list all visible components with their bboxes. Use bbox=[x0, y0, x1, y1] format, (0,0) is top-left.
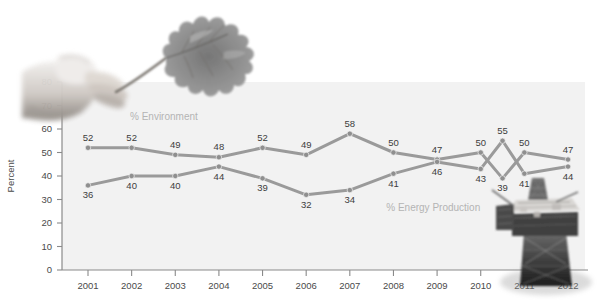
y-axis-tick-label: 40 bbox=[41, 170, 52, 181]
data-point-label: 44 bbox=[563, 171, 574, 182]
data-point-label: 55 bbox=[497, 125, 508, 136]
data-point-label: 50 bbox=[519, 137, 530, 148]
x-axis-tick-label: 2010 bbox=[470, 280, 491, 291]
series-data-point bbox=[478, 150, 483, 155]
y-axis-tick-label: 70 bbox=[41, 100, 52, 111]
series-data-point bbox=[260, 145, 265, 150]
data-point-label: 52 bbox=[126, 132, 137, 143]
series-name-annotation: % Environment bbox=[130, 111, 198, 122]
data-point-label: 48 bbox=[214, 141, 225, 152]
data-point-label: 40 bbox=[170, 180, 181, 191]
data-point-label: 40 bbox=[126, 180, 137, 191]
series-data-point bbox=[391, 150, 396, 155]
series-data-point bbox=[500, 138, 505, 143]
series-data-point bbox=[85, 145, 90, 150]
data-point-label: 46 bbox=[432, 166, 443, 177]
series-data-point bbox=[522, 150, 527, 155]
data-point-label: 47 bbox=[563, 144, 574, 155]
x-axis-tick-label: 2002 bbox=[121, 280, 142, 291]
data-point-label: 52 bbox=[83, 132, 94, 143]
series-data-point bbox=[216, 155, 221, 160]
series-data-point bbox=[434, 159, 439, 164]
series-name-annotation: % Energy Production bbox=[386, 202, 480, 213]
series-data-point bbox=[173, 152, 178, 157]
series-data-point bbox=[565, 157, 570, 162]
series-data-point bbox=[500, 176, 505, 181]
data-point-label: 50 bbox=[388, 137, 399, 148]
x-axis-tick-label: 2003 bbox=[165, 280, 186, 291]
data-point-label: 50 bbox=[475, 137, 486, 148]
data-point-label: 41 bbox=[388, 178, 399, 189]
series-data-point bbox=[260, 176, 265, 181]
y-axis-tick-label: 0 bbox=[47, 264, 52, 275]
chart-canvas: 01020304050607080 2001200220032004200520… bbox=[0, 0, 603, 305]
data-point-label: 39 bbox=[257, 182, 268, 193]
x-axis-tick-label: 2012 bbox=[557, 280, 578, 291]
data-point-label: 49 bbox=[301, 139, 312, 150]
data-point-label: 39 bbox=[497, 182, 508, 193]
series-data-point bbox=[85, 183, 90, 188]
data-point-label: 34 bbox=[345, 194, 356, 205]
data-point-label: 58 bbox=[345, 118, 356, 129]
y-axis-tick-label: 10 bbox=[41, 241, 52, 252]
data-point-label: 52 bbox=[257, 132, 268, 143]
data-point-label: 44 bbox=[214, 171, 225, 182]
series-data-point bbox=[303, 192, 308, 197]
x-axis-tick-label: 2007 bbox=[339, 280, 360, 291]
y-axis-tick-label: 50 bbox=[41, 147, 52, 158]
series-data-point bbox=[391, 171, 396, 176]
data-point-label: 32 bbox=[301, 199, 312, 210]
data-point-label: 36 bbox=[83, 189, 94, 200]
series-data-point bbox=[216, 164, 221, 169]
data-point-label: 41 bbox=[519, 178, 530, 189]
x-axis-tick-label: 2006 bbox=[296, 280, 317, 291]
data-point-label: 47 bbox=[432, 144, 443, 155]
x-axis-tick-label: 2011 bbox=[514, 280, 534, 291]
x-axis-tick-label: 2008 bbox=[383, 280, 404, 291]
y-axis-title: Percent bbox=[5, 159, 16, 192]
x-axis-tick-label: 2005 bbox=[252, 280, 273, 291]
line-chart-figure: 01020304050607080 2001200220032004200520… bbox=[0, 0, 603, 305]
series-data-point bbox=[478, 166, 483, 171]
series-data-point bbox=[565, 164, 570, 169]
y-axis-tick-label: 80 bbox=[41, 76, 52, 87]
series-data-point bbox=[347, 131, 352, 136]
series-data-point bbox=[347, 187, 352, 192]
series-data-point bbox=[173, 173, 178, 178]
x-axis: 2001200220032004200520062007200820092010… bbox=[77, 270, 578, 291]
data-point-label: 49 bbox=[170, 139, 181, 150]
series-data-point bbox=[129, 145, 134, 150]
y-axis-tick-label: 30 bbox=[41, 194, 52, 205]
x-axis-tick-label: 2001 bbox=[77, 280, 98, 291]
y-axis: 01020304050607080 bbox=[41, 76, 62, 275]
series-data-point bbox=[129, 173, 134, 178]
data-point-label: 43 bbox=[475, 173, 486, 184]
x-axis-tick-label: 2004 bbox=[208, 280, 229, 291]
series-data-point bbox=[522, 171, 527, 176]
x-axis-tick-label: 2009 bbox=[427, 280, 448, 291]
y-axis-tick-label: 60 bbox=[41, 123, 52, 134]
series-data-point bbox=[303, 152, 308, 157]
y-axis-tick-label: 20 bbox=[41, 217, 52, 228]
